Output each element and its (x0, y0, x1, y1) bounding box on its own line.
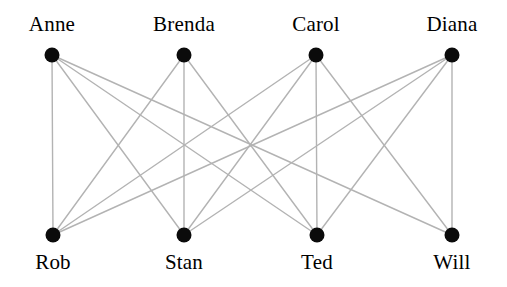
graph-diagram: AnneBrendaCarolDianaRobStanTedWill (0, 0, 507, 287)
node-label-ted: Ted (301, 250, 333, 275)
node-label-brenda: Brenda (153, 12, 215, 37)
edges-layer (52, 55, 452, 235)
graph-edge (52, 55, 53, 235)
graph-node-stan[interactable] (177, 228, 192, 243)
graph-node-anne[interactable] (45, 48, 60, 63)
graph-node-diana[interactable] (445, 48, 460, 63)
graph-edge (184, 55, 452, 235)
graph-node-brenda[interactable] (177, 48, 192, 63)
node-label-anne: Anne (29, 12, 75, 37)
graph-node-carol[interactable] (309, 48, 324, 63)
node-label-rob: Rob (35, 250, 71, 275)
node-label-carol: Carol (292, 12, 340, 37)
graph-node-ted[interactable] (310, 228, 325, 243)
graph-canvas (0, 0, 507, 287)
graph-node-rob[interactable] (46, 228, 61, 243)
node-label-diana: Diana (426, 12, 477, 37)
node-label-will: Will (433, 250, 470, 275)
graph-node-will[interactable] (445, 228, 460, 243)
node-label-stan: Stan (165, 250, 203, 275)
